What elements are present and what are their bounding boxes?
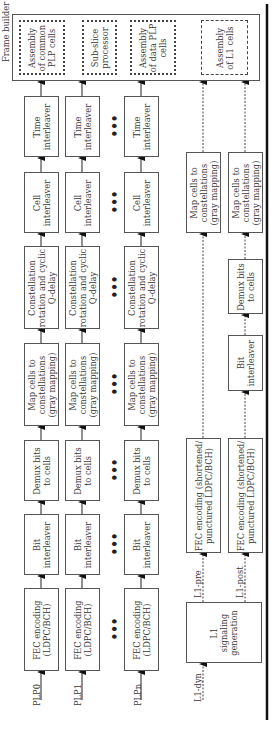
demux-bits-plp0: Demux bits to cells: [24, 440, 59, 501]
cell-interleaver-plpn: Cell interleaver: [124, 172, 159, 233]
stage-label: Time interleaver: [32, 103, 52, 149]
bit-interleaver-plpn: Bit interleaver: [124, 514, 159, 575]
constellation-rotation-plp0: Constellation rotation and cyclic Q-dela…: [24, 246, 59, 329]
fec-encoding-l1-post: FEC encoding (shortened/ punctured LDPC/…: [228, 438, 263, 553]
assembly-l1-label: Assembly of L1 cells: [215, 26, 235, 69]
l1-pre-label: L1-pre: [193, 570, 203, 598]
stage-label: FEC encoding (shortened/ punctured LDPC/…: [236, 440, 256, 550]
ellipsis-icon: •••: [111, 532, 119, 555]
assembly-data-plp-block: Assembly of data PLP cells: [130, 20, 176, 75]
l1-dyn-label: L1-dyn: [193, 673, 203, 702]
stage-label: Map cells to constellations (gray mappin…: [189, 160, 219, 225]
bit-interleaver-plp1: Bit interleaver: [65, 514, 100, 575]
stage-label: L1 signaling generation: [209, 610, 239, 656]
stage-label: Cell interleaver: [32, 179, 52, 225]
stage-label: FEC encoding (shortened/ punctured LDPC/…: [194, 440, 214, 550]
stage-label: Cell interleaver: [132, 179, 152, 225]
time-interleaver-plpn: Time interleaver: [124, 96, 159, 157]
frame-builder-label: Frame builder: [1, 2, 11, 62]
stage-label: Demux bits to cells: [132, 447, 152, 495]
input-plpn-label: PLPn: [133, 684, 143, 706]
ellipsis-icon: •••: [111, 617, 119, 640]
demux-bits-plp1: Demux bits to cells: [65, 440, 100, 501]
stage-label: FEC encoding (LDPC/BCH): [32, 600, 52, 659]
ellipsis-icon: •••: [111, 114, 119, 137]
demux-bits-plpn: Demux bits to cells: [124, 440, 159, 501]
l1-post-label: L1-post: [235, 567, 245, 599]
stage-label: Bit interleaver: [32, 521, 52, 567]
ellipsis-icon: •••: [111, 275, 119, 298]
stage-label: Constellation rotation and cyclic Q-dela…: [127, 248, 157, 326]
assembly-l1-block: Assembly of L1 cells: [201, 20, 248, 75]
stage-label: Constellation rotation and cyclic Q-dela…: [27, 248, 57, 326]
time-interleaver-plp1: Time interleaver: [65, 96, 100, 157]
map-cells-l1-post: Map cells to constellations (gray mappin…: [228, 152, 263, 233]
assembly-common-plp-label: Assembly of common PLP cells: [27, 24, 57, 70]
l1-signaling-generation: L1 signaling generation: [186, 602, 262, 663]
assembly-data-plp-label: Assembly of data PLP cells: [138, 23, 168, 72]
time-interleaver-plp0: Time interleaver: [24, 96, 59, 157]
stage-label: Constellation rotation and cyclic Q-dela…: [68, 248, 98, 326]
fec-encoding-l1-pre: FEC encoding (shortened/ punctured LDPC/…: [186, 438, 221, 553]
fec-encoding-plp0: FEC encoding (LDPC/BCH): [24, 588, 59, 671]
stage-label: FEC encoding (LDPC/BCH): [73, 600, 93, 659]
fec-encoding-plp1: FEC encoding (LDPC/BCH): [65, 588, 100, 671]
ellipsis-icon: •••: [111, 190, 119, 213]
input-plp1-label: PLP1: [73, 684, 83, 706]
map-cells-plpn: Map cells to constellations (gray mappin…: [124, 343, 159, 426]
stage-label: Map cells to constellations (gray mappin…: [27, 352, 57, 417]
assembly-common-plp-block: Assembly of common PLP cells: [19, 20, 65, 75]
input-plp0-label: PLP0: [32, 684, 42, 706]
stage-label: FEC encoding (LDPC/BCH): [132, 600, 152, 659]
stage-label: Bit interleaver: [132, 521, 152, 567]
stage-label: Time interleaver: [73, 103, 93, 149]
bit-interleaver-plp0: Bit interleaver: [24, 514, 59, 575]
constellation-rotation-plp1: Constellation rotation and cyclic Q-dela…: [65, 246, 100, 329]
stage-label: Bit interleaver: [73, 521, 93, 567]
stage-label: Demux bits to cells: [32, 447, 52, 495]
stage-label: Bit interleaver: [236, 340, 256, 386]
cell-interleaver-plp1: Cell interleaver: [65, 172, 100, 233]
bit-interleaver-l1-post: Bit interleaver: [228, 335, 263, 391]
stage-label: Demux bits to cells: [236, 263, 256, 311]
stage-label: Cell interleaver: [73, 179, 93, 225]
constellation-rotation-plpn: Constellation rotation and cyclic Q-dela…: [124, 246, 159, 329]
fec-encoding-plpn: FEC encoding (LDPC/BCH): [124, 588, 159, 671]
stage-label: Map cells to constellations (gray mappin…: [127, 352, 157, 417]
cell-interleaver-plp0: Cell interleaver: [24, 172, 59, 233]
stage-label: Time interleaver: [132, 103, 152, 149]
sub-slice-processor-label: Sub-slice processor: [90, 27, 110, 68]
sub-slice-processor-block: Sub-slice processor: [82, 20, 117, 75]
map-cells-plp0: Map cells to constellations (gray mappin…: [24, 343, 59, 426]
stage-label: Map cells to constellations (gray mappin…: [68, 352, 98, 417]
ellipsis-icon: •••: [111, 372, 119, 395]
demux-bits-l1-post: Demux bits to cells: [228, 259, 263, 314]
ellipsis-icon: •••: [111, 458, 119, 481]
map-cells-l1-pre: Map cells to constellations (gray mappin…: [186, 152, 221, 233]
map-cells-plp1: Map cells to constellations (gray mappin…: [65, 343, 100, 426]
stage-label: Map cells to constellations (gray mappin…: [231, 160, 261, 225]
stage-label: Demux bits to cells: [73, 447, 93, 495]
